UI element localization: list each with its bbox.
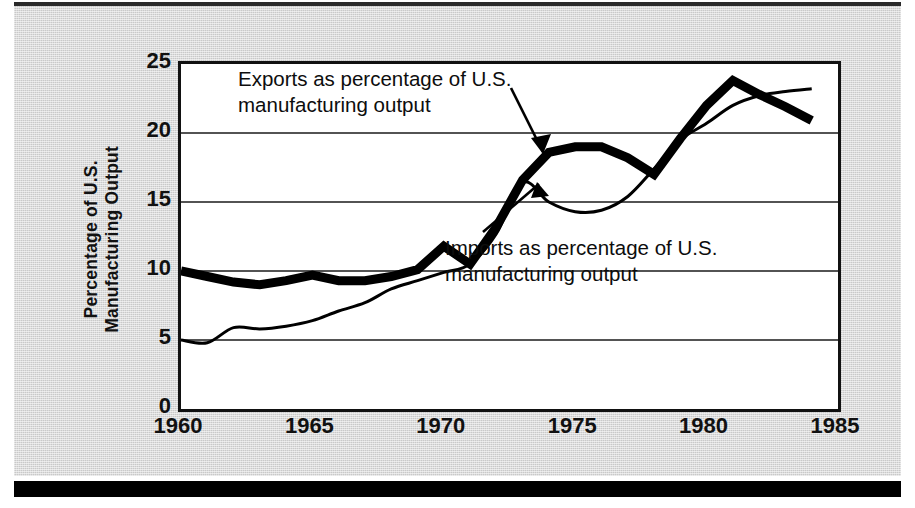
y-tick-label: 20: [127, 119, 171, 141]
exports-series-label-line1: Exports as percentage of U.S.: [238, 66, 511, 92]
x-tick-label: 1985: [775, 415, 895, 437]
x-tick-label: 1980: [644, 415, 764, 437]
y-tick-label: 5: [127, 326, 171, 348]
x-tick-label: 1965: [249, 415, 369, 437]
exports-series-label: Exports as percentage of U.S. manufactur…: [238, 66, 511, 118]
x-tick-label: 1970: [381, 415, 501, 437]
y-axis-title-line2: Manufacturing Output: [102, 84, 123, 394]
y-axis-title-line1: Percentage of U.S.: [81, 84, 102, 394]
y-tick-label: 15: [127, 188, 171, 210]
x-tick-label: 1975: [512, 415, 632, 437]
imports-arrow-shaft: [483, 184, 539, 232]
imports-series-line: [181, 89, 812, 343]
y-axis-title: Percentage of U.S. Manufacturing Output: [81, 84, 124, 394]
x-tick-label: 1960: [118, 415, 238, 437]
imports-series-label-line1: Imports as percentage of U.S.: [445, 235, 717, 261]
imports-series-label-line2: manufacturing output: [445, 261, 717, 287]
data-series-layer: [181, 81, 812, 344]
y-tick-label: 10: [127, 257, 171, 279]
exports-series-label-line2: manufacturing output: [238, 92, 511, 118]
y-tick-label: 25: [127, 50, 171, 72]
imports-series-label: Imports as percentage of U.S. manufactur…: [445, 235, 717, 287]
chart-figure: Percentage of U.S. Manufacturing Output …: [0, 0, 915, 508]
